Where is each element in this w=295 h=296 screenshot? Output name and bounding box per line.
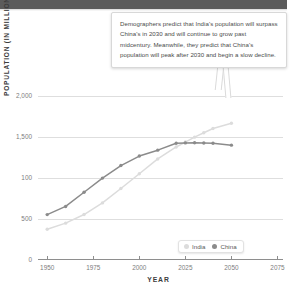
x-tick-label: 2050 (224, 264, 238, 271)
legend-swatch-china (212, 244, 217, 249)
data-point-india (82, 213, 85, 216)
data-point-india (101, 201, 104, 204)
series-lines (38, 88, 283, 260)
callout-text: Demographers predict that India's popula… (120, 19, 279, 61)
legend-label-india: India (192, 243, 205, 250)
data-point-china (119, 164, 122, 167)
legend-item-india[interactable]: India (184, 243, 205, 250)
data-point-india (230, 122, 233, 125)
y-tick-label: 500 (21, 215, 32, 222)
data-point-china (202, 141, 205, 144)
x-tick-label: 2025 (178, 264, 192, 271)
legend-label-china: China (220, 243, 236, 250)
plot-area: 05001001,5002,000 1950197520002025205020… (38, 88, 283, 260)
callout-annotation: Demographers predict that India's popula… (111, 12, 287, 68)
data-point-india (64, 221, 67, 224)
data-point-india (193, 135, 196, 138)
data-point-india (138, 172, 141, 175)
chart-screenshot: Demographers predict that India's popula… (0, 0, 295, 296)
y-tick-label: 100 (21, 174, 32, 181)
chart-legend: India China (178, 240, 244, 253)
data-point-china (184, 141, 187, 144)
x-tick-label: 1975 (86, 264, 100, 271)
y-tick-label: 0 (28, 256, 32, 263)
x-tick-label: 2000 (132, 264, 146, 271)
data-point-china (138, 154, 141, 157)
data-point-china (174, 142, 177, 145)
x-axis-title-text: YEAR (147, 276, 169, 283)
data-point-china (46, 213, 49, 216)
x-axis-title: YEAR (0, 276, 295, 283)
data-point-india (46, 228, 49, 231)
y-tick-label: 2,000 (16, 92, 32, 99)
data-point-india (119, 187, 122, 190)
data-point-india (156, 157, 159, 160)
data-point-india (174, 145, 177, 148)
y-axis-title: POPULATION (IN MILLIONS) (3, 0, 10, 96)
y-tick-label: 1,500 (16, 133, 32, 140)
data-point-china (101, 176, 104, 179)
series-line-india (47, 123, 231, 229)
x-tick-label: 2075 (270, 264, 284, 271)
data-point-china (211, 142, 214, 145)
data-point-china (64, 205, 67, 208)
data-point-india (202, 131, 205, 134)
x-tick-label: 1950 (40, 264, 54, 271)
data-point-china (193, 141, 196, 144)
data-point-china (230, 143, 233, 146)
data-point-india (211, 127, 214, 130)
legend-swatch-india (184, 244, 189, 249)
legend-item-china[interactable]: China (212, 243, 236, 250)
header-shadow (0, 9, 287, 11)
series-line-china (47, 143, 231, 215)
data-point-china (156, 148, 159, 151)
window-header-bar (0, 0, 287, 9)
data-point-china (82, 191, 85, 194)
